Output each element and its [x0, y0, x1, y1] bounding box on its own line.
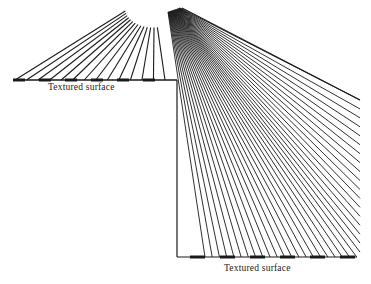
- lower-surface-label: Textured surface: [224, 263, 291, 273]
- right-fan-lines: [168, 8, 360, 257]
- optic-array-diagram: [0, 0, 371, 284]
- left-fan-lines: [15, 11, 165, 80]
- upper-surface-label: Textured surface: [48, 82, 115, 92]
